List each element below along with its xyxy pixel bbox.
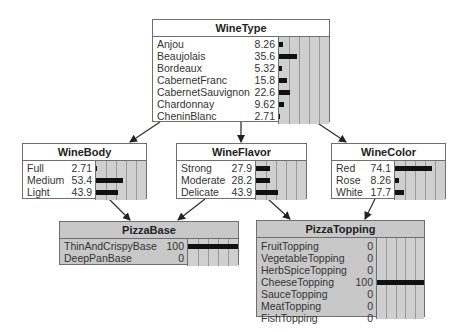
- belief-bar: [188, 244, 238, 249]
- state-label: Delicate: [181, 186, 219, 198]
- state-label: CheeseTopping: [261, 276, 334, 288]
- node-winecolor[interactable]: WineColor Red74.1Rose8.26White17.7: [331, 143, 446, 199]
- belief-bar-panel: [187, 239, 238, 266]
- state-row[interactable]: Red74.1: [332, 162, 394, 174]
- state-row[interactable]: CabernetSauvignon22.6: [153, 86, 278, 98]
- state-label: Bordeaux: [157, 62, 202, 74]
- state-row[interactable]: Moderate28.2: [177, 174, 255, 186]
- state-row[interactable]: ThinAndCrispyBase100: [60, 240, 187, 252]
- edge-winebody-pizzabase: [109, 199, 130, 220]
- state-probability: 0: [367, 312, 373, 324]
- state-probability: 43.9: [72, 186, 92, 198]
- state-label: MeatTopping: [261, 300, 321, 312]
- state-label: CabernetSauvignon: [157, 86, 250, 98]
- belief-bar-panel: [376, 238, 424, 319]
- state-row[interactable]: White17.7: [332, 186, 394, 198]
- state-list: FruitTopping0VegetableTopping0HerbSpiceT…: [257, 238, 376, 319]
- state-label: Beaujolais: [157, 50, 205, 62]
- state-probability: 100: [355, 276, 373, 288]
- state-probability: 2.71: [255, 110, 275, 122]
- node-pizzatopping[interactable]: PizzaTopping FruitTopping0VegetableToppi…: [256, 220, 425, 317]
- state-probability: 53.4: [72, 174, 92, 186]
- state-row[interactable]: HerbSpiceTopping0: [257, 264, 376, 276]
- node-pizzabase[interactable]: PizzaBase ThinAndCrispyBase100DeepPanBas…: [59, 221, 239, 265]
- state-row[interactable]: Bordeaux5.32: [153, 62, 278, 74]
- state-probability: 0: [178, 252, 184, 264]
- node-title: PizzaTopping: [257, 221, 424, 238]
- state-probability: 15.8: [255, 74, 275, 86]
- state-row[interactable]: FishTopping0: [257, 312, 376, 324]
- state-row[interactable]: CabernetFranc15.8: [153, 74, 278, 86]
- belief-bar: [279, 66, 282, 71]
- node-winebody[interactable]: WineBody Full2.71Medium53.4Light43.9: [22, 143, 147, 199]
- state-label: White: [336, 186, 363, 198]
- belief-bar: [279, 90, 290, 95]
- belief-bar: [395, 166, 432, 171]
- state-label: CheninBlanc: [157, 110, 217, 122]
- state-row[interactable]: FruitTopping0: [257, 240, 376, 252]
- state-label: FruitTopping: [261, 240, 319, 252]
- state-row[interactable]: Medium53.4: [23, 174, 95, 186]
- state-row[interactable]: Rose8.26: [332, 174, 394, 186]
- edge-wineflavor-pizzabase: [178, 199, 205, 220]
- node-title: WineType: [153, 20, 329, 37]
- node-title: WineFlavor: [177, 144, 306, 161]
- state-probability: 27.9: [232, 162, 252, 174]
- belief-bar: [279, 78, 287, 83]
- state-probability: 0: [367, 252, 373, 264]
- node-winetype[interactable]: WineType Anjou8.26Beaujolais35.6Bordeaux…: [152, 19, 330, 122]
- belief-bar: [395, 190, 404, 195]
- belief-bar: [279, 114, 280, 119]
- state-row[interactable]: SauceTopping0: [257, 288, 376, 300]
- node-wineflavor[interactable]: WineFlavor Strong27.9Moderate28.2Delicat…: [176, 143, 307, 199]
- state-probability: 9.62: [255, 98, 275, 110]
- grid-line: [435, 161, 436, 200]
- state-probability: 8.26: [255, 38, 275, 50]
- state-list: ThinAndCrispyBase100DeepPanBase0: [60, 239, 187, 266]
- state-probability: 28.2: [232, 174, 252, 186]
- grid-line: [309, 37, 310, 124]
- state-probability: 0: [367, 300, 373, 312]
- state-probability: 5.32: [255, 62, 275, 74]
- state-label: Moderate: [181, 174, 225, 186]
- node-title: WineBody: [23, 144, 146, 161]
- state-row[interactable]: MeatTopping0: [257, 300, 376, 312]
- state-label: Strong: [181, 162, 212, 174]
- belief-bar: [279, 102, 284, 107]
- state-probability: 35.6: [255, 50, 275, 62]
- belief-bar: [256, 178, 270, 183]
- grid-line: [136, 161, 137, 200]
- grid-line: [299, 37, 300, 124]
- state-list: Full2.71Medium53.4Light43.9: [23, 161, 95, 200]
- state-label: CabernetFranc: [157, 74, 227, 86]
- state-row[interactable]: CheninBlanc2.71: [153, 110, 278, 122]
- belief-bar: [96, 190, 118, 195]
- state-row[interactable]: Chardonnay9.62: [153, 98, 278, 110]
- state-probability: 43.9: [232, 186, 252, 198]
- belief-bar: [256, 190, 278, 195]
- state-row[interactable]: Strong27.9: [177, 162, 255, 174]
- node-title: WineColor: [332, 144, 445, 161]
- state-row[interactable]: Light43.9: [23, 186, 95, 198]
- state-label: Rose: [336, 174, 361, 186]
- state-label: ThinAndCrispyBase: [64, 240, 157, 252]
- edge-winetype-winebody: [130, 122, 160, 142]
- state-row[interactable]: CheeseTopping100: [257, 276, 376, 288]
- belief-bar-panel: [95, 161, 146, 200]
- grid-line: [296, 161, 297, 200]
- state-row[interactable]: Full2.71: [23, 162, 95, 174]
- belief-bar: [96, 166, 97, 171]
- grid-line: [396, 238, 397, 319]
- state-label: HerbSpiceTopping: [261, 264, 347, 276]
- state-label: Medium: [27, 174, 64, 186]
- state-probability: 17.7: [371, 186, 391, 198]
- state-row[interactable]: VegetableTopping0: [257, 252, 376, 264]
- state-probability: 22.6: [255, 86, 275, 98]
- state-row[interactable]: DeepPanBase0: [60, 252, 187, 264]
- grid-line: [286, 161, 287, 200]
- state-row[interactable]: Delicate43.9: [177, 186, 255, 198]
- state-row[interactable]: Beaujolais35.6: [153, 50, 278, 62]
- state-probability: 100: [166, 240, 184, 252]
- state-row[interactable]: Anjou8.26: [153, 38, 278, 50]
- grid-line: [415, 238, 416, 319]
